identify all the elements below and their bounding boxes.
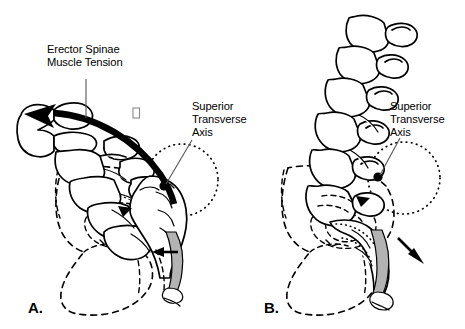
panel-b-axis-label-line2: Transverse [390,113,445,125]
panel-b-letter: B. [264,299,279,316]
panel-a-erector-label-line2: Muscle Tension [47,56,123,68]
panel-a-letter: A. [28,299,43,316]
figure-root: Erector Spinae Muscle Tension Superior T… [0,0,465,329]
panel-a-erector-label-line1: Erector Spinae [47,43,120,55]
panel-a-axis-label-line1: Superior [192,100,234,112]
panel-b-axis-label-line1: Superior [390,100,432,112]
panel-a-axis-label-line2: Transverse [192,113,247,125]
panel-a-axis-label-line3: Axis [192,126,213,138]
panel-b-axis-label-line3: Axis [390,126,411,138]
anatomical-figure: Erector Spinae Muscle Tension Superior T… [0,0,465,329]
